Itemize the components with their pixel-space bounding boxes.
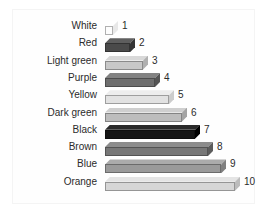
value-label: 6 [191,104,197,121]
bar-top-face [105,108,187,113]
value-label: 5 [178,86,184,103]
bar-front-face [105,182,235,191]
bar-top-face [105,56,148,61]
category-label: Light green [0,52,97,69]
category-label: Dark green [0,104,97,121]
category-label: Black [0,121,97,138]
bar-top-face [105,159,226,164]
bar-row: Brown8 [0,138,267,155]
value-label: 9 [230,155,236,172]
category-label: White [0,17,97,34]
bar-top-face [105,38,135,43]
bar-row: Black7 [0,121,267,138]
bar-top-face [105,177,240,182]
bar-row: Yellow5 [0,86,267,103]
category-label: Blue [0,155,97,172]
bar-top-face [105,73,160,78]
bar-row: Purple4 [0,69,267,86]
bar-top-face [105,142,213,147]
bar-top-face [105,125,200,130]
category-label: Red [0,34,97,51]
bar-row: Blue9 [0,155,267,172]
bar-row: White1 [0,17,267,34]
category-label: Yellow [0,86,97,103]
bar-chart: White1Red2Light green3Purple4Yellow5Dark… [0,0,267,213]
value-label: 1 [122,17,128,34]
value-label: 8 [217,138,223,155]
value-label: 10 [244,173,255,190]
value-label: 4 [164,69,170,86]
category-label: Purple [0,69,97,86]
bar-row: Light green3 [0,52,267,69]
bar-rows-container: White1Red2Light green3Purple4Yellow5Dark… [0,0,267,213]
bar-row: Red2 [0,34,267,51]
bar-top-face [105,90,174,95]
bar-row: Dark green6 [0,104,267,121]
bar-row: Orange10 [0,173,267,190]
value-label: 3 [152,52,158,69]
category-label: Orange [0,173,97,190]
category-label: Brown [0,138,97,155]
value-label: 2 [139,34,145,51]
value-label: 7 [204,121,210,138]
